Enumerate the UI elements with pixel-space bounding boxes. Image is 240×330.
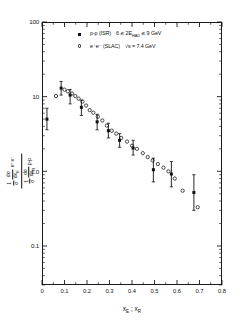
x-tick-label: 0 <box>32 288 52 294</box>
y-title-num-tag: e⁺e⁻ <box>10 156 15 168</box>
legend: p-p (ISR)6 ≲ 2EHAD ≲ 9 GeV e⁺e⁻ (SLAC)√s… <box>78 28 228 52</box>
x-tick-label: 0.6 <box>167 288 187 294</box>
y-tick-label: 100 <box>18 18 39 25</box>
legend-label-pp: p-p (ISR)6 ≲ 2EHAD ≲ 9 GeV <box>90 30 161 38</box>
y-title-den-tag: p-p <box>27 158 32 165</box>
filled-square-icon <box>78 33 90 36</box>
x-tick-label: 0.7 <box>190 288 210 294</box>
y-title-denominator: 1σ dσdxR p-p <box>21 156 37 187</box>
y-title-ratio: 1σ dσdxE e⁺e⁻ 1σ dσdxR p-p <box>5 154 37 189</box>
open-circle-icon <box>78 44 90 47</box>
x-tick-label: 0.3 <box>100 288 120 294</box>
plot-frame <box>42 22 222 285</box>
x-tick-label: 0.5 <box>145 288 165 294</box>
x-tick-label: 0.8 <box>212 288 232 294</box>
x-tick-label: 0.4 <box>122 288 142 294</box>
x-tick-label: 0.2 <box>77 288 97 294</box>
figure-panel: 100 10 1.0 0.1 00.10.20.30.40.50.60.70.8… <box>0 0 240 330</box>
legend-label-ee: e⁺e⁻ (SLAC)√s = 7.4 GeV <box>90 43 155 49</box>
x-axis-title: xE ; xR <box>42 305 222 314</box>
y-axis-title: 1σ dσdxE e⁺e⁻ 1σ dσdxR p-p <box>4 96 38 246</box>
x-title-second-sub: R <box>138 309 141 314</box>
y-title-numerator: 1σ dσdxE e⁺e⁻ <box>5 154 21 189</box>
x-tick-label: 0.1 <box>55 288 75 294</box>
legend-item-ee: e⁺e⁻ (SLAC)√s = 7.4 GeV <box>78 40 228 52</box>
legend-item-pp: p-p (ISR)6 ≲ 2EHAD ≲ 9 GeV <box>78 28 228 40</box>
